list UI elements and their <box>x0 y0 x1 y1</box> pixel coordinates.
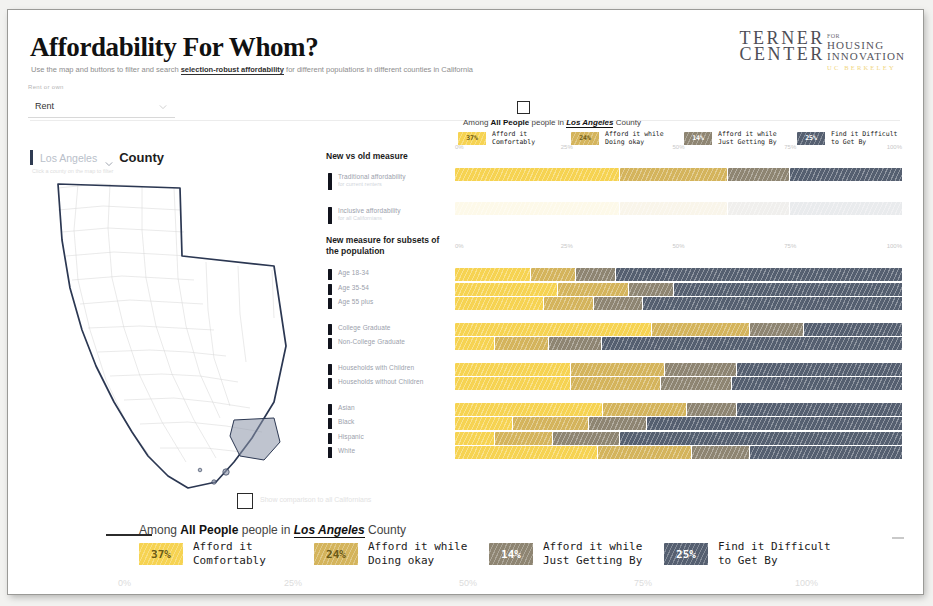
legend-label-line2: to Get By <box>718 554 831 568</box>
chart-axis-bottom: 0%25%50%75%100% <box>118 578 818 587</box>
legend-title-post: County <box>365 523 406 537</box>
legend-label-line2: Just Getting By <box>543 554 642 568</box>
island-catalina <box>223 469 229 475</box>
filter-button-age-55-plus[interactable]: Age 55 plus <box>328 298 373 309</box>
filter-button-black[interactable]: Black <box>328 418 354 429</box>
filter-button-hispanic[interactable]: Hispanic <box>328 433 364 444</box>
filter-tick <box>328 404 332 415</box>
legend-swatch: 24% <box>571 132 599 145</box>
legend-title-county: Los Angeles <box>294 523 365 538</box>
filter-button-households-without-children[interactable]: Households without Children <box>328 378 423 389</box>
subtitle-link[interactable]: selection-robust affordability <box>181 65 284 75</box>
bar-segment-1 <box>455 202 620 215</box>
chart-bar-row[interactable] <box>455 446 902 459</box>
filter-button-label: Households without Children <box>338 378 423 386</box>
filter-button-inclusive-affordability[interactable]: Inclusive affordabilityfor all Californi… <box>328 207 401 224</box>
chart-bar-row[interactable] <box>455 417 902 430</box>
map-accent-bar <box>30 150 33 165</box>
chevron-down-icon <box>159 103 166 110</box>
subtitle-pre: Use the map and buttons to filter and se… <box>31 65 181 74</box>
legend-percent: 37% <box>466 134 478 142</box>
axis-tick-label: 0% <box>455 243 464 249</box>
filter-button-non-college-graduate[interactable]: Non-College Graduate <box>328 338 405 349</box>
filter-button-label: Traditional affordability <box>338 173 406 181</box>
axis-tick-label: 50% <box>672 243 684 249</box>
filter-button-label: Households with Children <box>338 364 414 372</box>
island-other <box>198 468 202 472</box>
legend-percent: 25% <box>676 548 696 561</box>
bar-segment-4 <box>790 168 902 181</box>
filter-tick <box>328 269 332 280</box>
legend-item-3: 14%Afford it whileJust Getting By <box>489 540 642 568</box>
legend-title-post: County <box>613 118 641 127</box>
tenure-select[interactable]: Rent <box>28 96 175 118</box>
chart-bar-row[interactable] <box>455 363 902 376</box>
legend-title-group: All People <box>491 118 530 127</box>
chart-bar-row[interactable] <box>455 377 902 390</box>
legend-label-line1: Afford it <box>193 540 266 554</box>
screenshot-root: Affordability For Whom? Use the map and … <box>0 0 933 606</box>
filter-button-label: White <box>338 447 355 455</box>
control-group-title: New measure for subsets of the populatio… <box>326 235 454 257</box>
bottom-checkbox[interactable] <box>237 493 253 509</box>
bottom-checkbox-note: Show comparison to all Californians <box>260 496 371 503</box>
filter-button-white[interactable]: White <box>328 447 355 458</box>
chart-bar-row[interactable] <box>455 323 902 336</box>
bar-segment-4 <box>790 202 902 215</box>
subtitle-post: for different populations in different c… <box>284 65 473 74</box>
filter-button-households-with-children[interactable]: Households with Children <box>328 364 414 375</box>
bar-segment-3 <box>594 297 643 310</box>
bar-segment-4 <box>750 446 902 459</box>
bar-segment-2 <box>513 417 589 430</box>
bar-segment-4 <box>620 432 902 445</box>
axis-tick-label: 75% <box>784 243 796 249</box>
legend-label: Afford it whileDoing okay <box>368 540 467 568</box>
filter-button-traditional-affordability[interactable]: Traditional affordabilityfor current ren… <box>328 173 406 190</box>
legend-percent: 14% <box>501 548 521 561</box>
legend-label-line1: Afford it while <box>543 540 642 554</box>
bar-segment-3 <box>553 432 620 445</box>
logo-line-2: CENTER <box>739 46 825 62</box>
bar-segment-1 <box>455 168 620 181</box>
filter-button-label: Hispanic <box>338 433 364 441</box>
legend-title-mid: people in <box>529 118 566 127</box>
bar-segment-4 <box>616 268 902 281</box>
filter-tick <box>328 173 332 190</box>
chart-bar-row[interactable] <box>455 432 902 445</box>
chart-bar-row[interactable] <box>455 268 902 281</box>
bar-segment-2 <box>652 323 750 336</box>
california-map[interactable] <box>28 170 318 500</box>
legend-label: Afford it whileJust Getting By <box>543 540 642 568</box>
legend-label-line1: Find it Difficult <box>718 540 831 554</box>
chart-bar-row[interactable] <box>455 297 902 310</box>
filter-tick <box>328 284 332 295</box>
chart-bar-row[interactable] <box>455 337 902 350</box>
filter-button-age-35-54[interactable]: Age 35-54 <box>328 284 369 295</box>
filter-button-college-graduate[interactable]: College Graduate <box>328 324 391 335</box>
chart-bar-row[interactable] <box>455 202 902 215</box>
filter-button-label: Black <box>338 418 354 426</box>
filter-button-age-18-34[interactable]: Age 18-34 <box>328 269 369 280</box>
legend-label: Find it Difficultto Get By <box>718 540 831 568</box>
legend-label-line2: Doing okay <box>368 554 467 568</box>
legend-swatch: 14% <box>684 132 712 145</box>
legend-item-2: 24%Afford it whileDoing okay <box>314 540 467 568</box>
top-checkbox[interactable] <box>517 101 530 114</box>
chart-bar-row[interactable] <box>455 403 902 416</box>
bar-segment-3 <box>728 202 791 215</box>
bar-segment-4 <box>732 377 902 390</box>
bar-segment-2 <box>571 363 665 376</box>
bar-segment-1 <box>455 337 495 350</box>
bar-segment-1 <box>455 297 544 310</box>
filter-button-label: Age 18-34 <box>338 269 369 277</box>
bar-segment-2 <box>531 268 576 281</box>
page-subtitle: Use the map and buttons to filter and se… <box>31 65 473 74</box>
california-map-svg[interactable] <box>28 170 318 500</box>
bar-segment-3 <box>661 377 733 390</box>
filter-button-label: Asian <box>338 404 355 412</box>
filter-tick <box>328 418 332 429</box>
map-county-selector[interactable]: Los Angeles County <box>30 150 164 165</box>
chart-bar-row[interactable] <box>455 168 902 181</box>
chart-bar-row[interactable] <box>455 283 902 296</box>
filter-button-asian[interactable]: Asian <box>328 404 355 415</box>
